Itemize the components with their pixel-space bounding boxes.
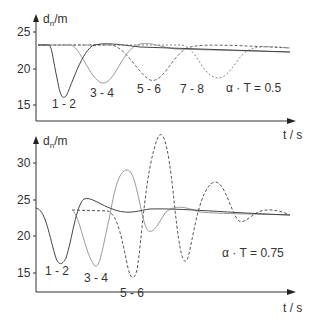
top-tick-15: 15	[17, 98, 31, 112]
top-x-label: t / s	[283, 128, 302, 142]
bottom-tick-15: 15	[17, 266, 31, 280]
top-y-arrow-icon	[33, 14, 39, 22]
bottom-label-1-2: 1 - 2	[45, 264, 69, 278]
top-chart: dn/m 25 20 15 1 - 2 3 - 4 5 - 6 7 - 8 α …	[17, 12, 302, 142]
bottom-chart: dn/m 30 25 20 15 1 - 2 3 - 4 5 - 6 α · T…	[17, 134, 302, 315]
figure: dn/m 25 20 15 1 - 2 3 - 4 5 - 6 7 - 8 α …	[0, 0, 318, 322]
bottom-y-label: dn/m	[43, 134, 67, 150]
bottom-label-3-4: 3 - 4	[84, 271, 108, 285]
bottom-tick-25: 25	[17, 193, 31, 207]
top-label-3-4: 3 - 4	[90, 86, 114, 100]
bottom-tick-20: 20	[17, 229, 31, 243]
bottom-x-label: t / s	[283, 301, 302, 315]
top-tick-20: 20	[17, 62, 31, 76]
top-label-1-2: 1 - 2	[52, 97, 76, 111]
top-y-label: dn/m	[43, 12, 67, 28]
top-label-5-6: 5 - 6	[137, 82, 161, 96]
top-annotation: α · T = 0.5	[226, 81, 281, 95]
bottom-y-arrow-icon	[33, 136, 39, 144]
bottom-annotation: α · T = 0.75	[222, 246, 284, 260]
top-label-7-8: 7 - 8	[180, 82, 204, 96]
top-x-arrow-icon	[287, 118, 296, 124]
bottom-x-arrow-icon	[287, 289, 296, 295]
top-series-3-4	[38, 44, 290, 84]
bottom-tick-30: 30	[17, 156, 31, 170]
top-tick-25: 25	[17, 25, 31, 39]
bottom-label-5-6: 5 - 6	[120, 286, 144, 300]
